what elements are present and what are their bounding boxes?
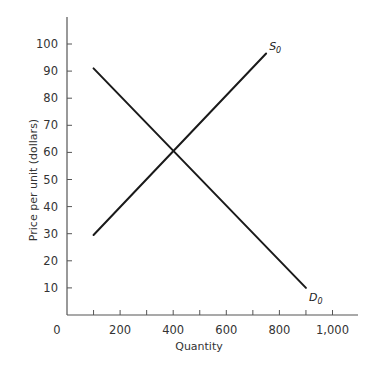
curve-d0: [94, 68, 306, 288]
curve-s0: [94, 53, 267, 235]
y-tick-label: 30: [43, 227, 58, 241]
y-tick-label: 100: [36, 37, 58, 51]
curves: S0D0: [94, 40, 323, 305]
y-tick-label: 40: [43, 200, 58, 214]
x-tick-label: 600: [215, 323, 237, 337]
curve-label-s0: S0: [269, 40, 281, 55]
y-tick-label: 50: [43, 173, 58, 187]
y-axis-title: Price per unit (dollars): [27, 119, 40, 241]
x-tick-label: 0: [53, 323, 60, 337]
x-axis-title: Quantity: [175, 340, 223, 353]
x-tick-label: 400: [162, 323, 184, 337]
y-tick-label: 90: [43, 64, 58, 78]
y-tick-label: 10: [43, 281, 58, 295]
axes: [67, 17, 358, 315]
y-tick-label: 20: [43, 254, 58, 268]
x-tick-label: 800: [268, 323, 290, 337]
x-tick-label: 200: [109, 323, 131, 337]
supply-demand-chart: 02004006008001,000102030405060708090100 …: [0, 0, 385, 376]
y-tick-label: 70: [43, 118, 58, 132]
tick-labels: 02004006008001,000102030405060708090100: [36, 37, 349, 337]
x-tick-label: 1,000: [316, 323, 349, 337]
y-tick-label: 80: [43, 91, 58, 105]
y-tick-label: 60: [43, 145, 58, 159]
curve-label-d0: D0: [309, 291, 323, 306]
